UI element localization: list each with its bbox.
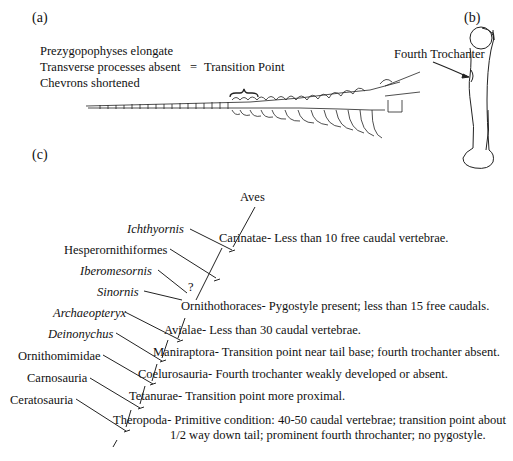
tail-skeleton-illustration	[86, 72, 420, 138]
diagram-lines	[0, 0, 513, 461]
transition-bracket	[230, 89, 258, 97]
cladogram-branches	[76, 207, 255, 447]
femur-illustration	[463, 27, 494, 168]
